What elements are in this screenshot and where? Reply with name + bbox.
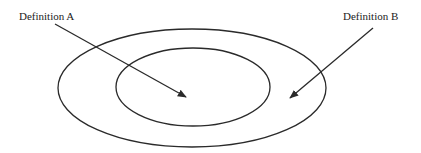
inner-ellipse [116,48,270,126]
arrow-b [290,28,373,98]
arrow-a [55,24,186,97]
diagram-canvas [0,0,421,153]
outer-ellipse [58,29,326,147]
